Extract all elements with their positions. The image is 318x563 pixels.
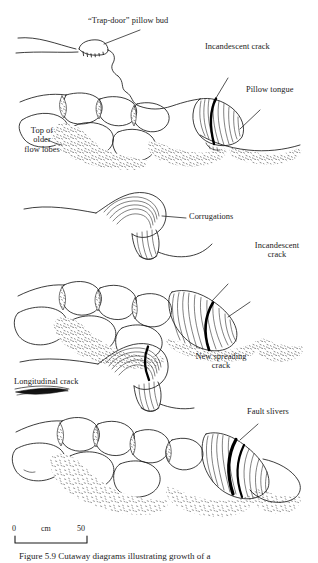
label-top-of-older-flow-lobes: Top of older flow lobes (10, 126, 74, 154)
scale-bar-right-value: 50 (77, 524, 85, 533)
stage-3-corrugations (24, 193, 212, 260)
label-incandescent-crack-top: Incandescent crack (205, 42, 270, 51)
label-incandescent-crack-mid-line1: Incandescent (244, 241, 310, 250)
label-new-spreading-crack-line1: New spreading (184, 352, 258, 361)
label-fault-slivers: Fault slivers (247, 407, 289, 416)
label-trap-door-pillow-bud: “Trap-door” pillow bud (88, 16, 168, 25)
label-top-of-older-flow-lobes-line3: flow lobes (10, 145, 74, 154)
stage-1-trap-door (16, 30, 140, 76)
scale-bar-rule (15, 536, 87, 543)
figure-root: “Trap-door” pillow bud Incandescent crac… (0, 0, 318, 563)
label-longitudinal-crack: Longitudinal crack (14, 377, 78, 386)
label-incandescent-crack-mid: Incandescent crack (244, 241, 310, 260)
scale-bar-left-value: 0 (12, 524, 16, 533)
stage-4b-fault-slivers (12, 417, 301, 517)
label-incandescent-crack-mid-line2: crack (244, 250, 310, 259)
stage-3b-incandescent-crack (14, 281, 303, 369)
figure-caption: Figure 5.9 Cutaway diagrams illustrating… (19, 551, 301, 563)
label-new-spreading-crack-line2: crack (184, 361, 258, 370)
label-pillow-tongue: Pillow tongue (246, 85, 293, 94)
scale-bar-unit: cm (41, 524, 51, 533)
label-new-spreading-crack: New spreading crack (184, 352, 258, 371)
label-top-of-older-flow-lobes-line2: older (10, 135, 74, 144)
label-top-of-older-flow-lobes-line1: Top of (10, 126, 74, 135)
label-corrugations: Corrugations (189, 212, 233, 221)
